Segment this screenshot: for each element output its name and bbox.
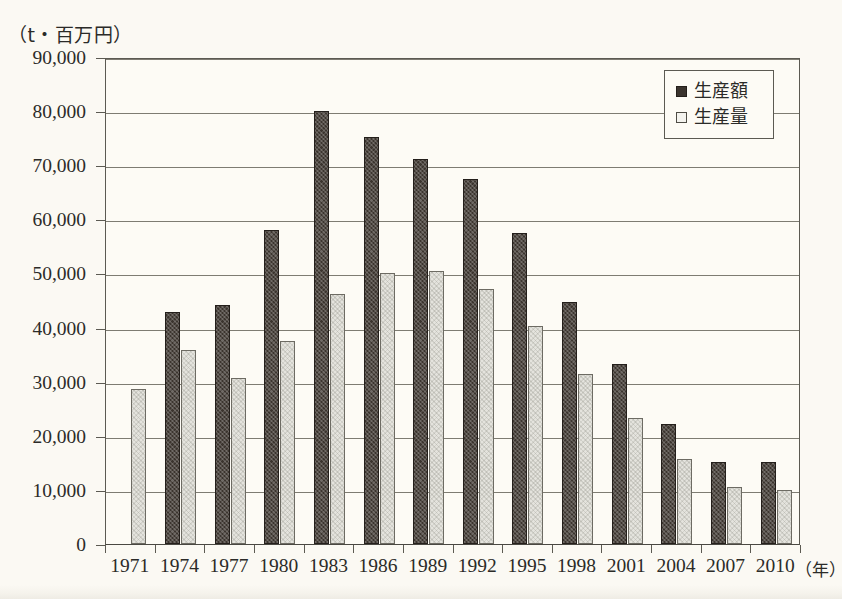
gridline xyxy=(106,438,799,439)
y-axis-tick-label: 60,000 xyxy=(32,210,86,230)
bar-seisangaku xyxy=(562,302,577,544)
gridline xyxy=(106,167,799,168)
gridline xyxy=(106,221,799,222)
x-axis-tick-mark xyxy=(353,545,354,553)
bar-seisangaku xyxy=(264,230,279,544)
x-axis-tick-mark xyxy=(552,545,553,553)
bar-seisanryou xyxy=(777,490,792,544)
gridline xyxy=(106,492,799,493)
legend-item-seisangaku: 生産額 xyxy=(676,78,764,104)
x-axis-tick-mark xyxy=(204,545,205,553)
x-axis-tick-mark xyxy=(155,545,156,553)
bar-seisanryou xyxy=(429,271,444,544)
bar-seisangaku xyxy=(512,233,527,544)
bar-seisanryou xyxy=(727,487,742,544)
bar-seisangaku xyxy=(761,462,776,544)
legend-label-seisanryou: 生産量 xyxy=(694,108,748,126)
bar-seisangaku xyxy=(711,462,726,544)
x-axis-tick-mark xyxy=(403,545,404,553)
x-axis-tick-mark xyxy=(701,545,702,553)
gridline xyxy=(106,384,799,385)
bar-seisangaku xyxy=(661,424,676,544)
x-axis-tick-mark xyxy=(502,545,503,553)
y-axis-tick-mark xyxy=(96,112,105,113)
bar-seisangaku xyxy=(314,111,329,544)
y-axis-tick-mark xyxy=(96,220,105,221)
bar-seisanryou xyxy=(330,294,345,544)
chart-legend: 生産額 生産量 xyxy=(664,70,774,139)
y-axis-tick-label: 70,000 xyxy=(32,156,86,176)
y-axis-tick-mark xyxy=(96,329,105,330)
bar-seisanryou xyxy=(131,389,146,544)
bar-seisangaku xyxy=(612,364,627,544)
bar-seisanryou xyxy=(578,374,593,544)
gridline xyxy=(106,275,799,276)
y-axis-tick-label: 0 xyxy=(76,535,86,555)
y-axis-tick-label: 40,000 xyxy=(32,319,86,339)
y-axis-tick-label: 90,000 xyxy=(32,48,86,68)
bar-seisangaku xyxy=(413,159,428,544)
bar-seisanryou xyxy=(479,289,494,544)
y-axis-tick-mark xyxy=(96,383,105,384)
bar-seisanryou xyxy=(528,326,543,544)
y-axis-tick-mark xyxy=(96,437,105,438)
x-axis-tick-mark xyxy=(800,545,801,553)
gridline xyxy=(106,59,799,60)
bar-seisanryou xyxy=(280,341,295,544)
x-axis-tick-mark xyxy=(750,545,751,553)
y-axis-unit-label: （t・百万円） xyxy=(8,20,133,47)
bar-seisanryou xyxy=(380,273,395,544)
bar-seisangaku xyxy=(165,312,180,544)
bar-seisangaku xyxy=(215,305,230,544)
legend-label-seisangaku: 生産額 xyxy=(694,82,748,100)
x-axis-tick-mark xyxy=(254,545,255,553)
y-axis-tick-label: 20,000 xyxy=(32,427,86,447)
x-axis-tick-mark xyxy=(453,545,454,553)
x-axis-tick-mark xyxy=(601,545,602,553)
gridline xyxy=(106,330,799,331)
y-axis-tick-mark xyxy=(96,274,105,275)
x-axis-tick-mark xyxy=(651,545,652,553)
legend-item-seisanryou: 生産量 xyxy=(676,104,764,130)
x-axis-unit-label: （年） xyxy=(795,556,842,581)
y-axis-tick-label: 50,000 xyxy=(32,264,86,284)
y-axis-tick-mark xyxy=(96,491,105,492)
dark-swatch-icon xyxy=(676,86,687,97)
x-axis-tick-mark xyxy=(304,545,305,553)
x-axis-tick-mark xyxy=(105,545,106,553)
y-axis-tick-mark xyxy=(96,166,105,167)
y-axis-tick-label: 10,000 xyxy=(32,481,86,501)
bar-seisanryou xyxy=(677,459,692,544)
scan-edge-shading xyxy=(0,585,842,599)
bar-chart-figure: （t・百万円） 90,00080,00070,00060,00050,00040… xyxy=(0,0,842,599)
bar-seisangaku xyxy=(463,179,478,544)
light-swatch-icon xyxy=(676,112,687,123)
bar-seisanryou xyxy=(231,378,246,544)
bar-seisangaku xyxy=(364,137,379,544)
y-axis-tick-label: 30,000 xyxy=(32,373,86,393)
y-axis-tick-mark xyxy=(96,545,105,546)
y-axis-tick-mark xyxy=(96,58,105,59)
y-axis-tick-label: 80,000 xyxy=(32,102,86,122)
bar-seisanryou xyxy=(181,350,196,544)
bar-seisanryou xyxy=(628,418,643,544)
